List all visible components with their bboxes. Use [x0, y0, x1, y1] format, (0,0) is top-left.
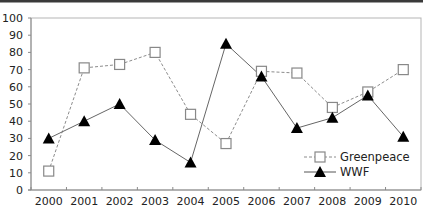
wwf-triangle-marker [78, 115, 90, 126]
wwf-triangle-marker [114, 98, 126, 109]
top-bar [0, 0, 423, 3]
wwf-triangle-marker [326, 112, 338, 123]
x-tick-label: 2005 [212, 195, 240, 208]
wwf-triangle-marker [43, 132, 55, 143]
legend-label-greenpeace: Greenpeace [340, 150, 410, 164]
x-tick-label: 2000 [35, 195, 63, 208]
x-axis: 2000200120022003200420052006200720082009… [28, 187, 421, 208]
wwf-triangle-marker [185, 156, 197, 167]
wwf-triangle-marker [291, 122, 303, 133]
y-tick-label: 50 [9, 98, 23, 111]
x-tick-label: 2004 [177, 195, 205, 208]
greenpeace-square-marker [44, 166, 54, 176]
x-tick-label: 2009 [354, 195, 382, 208]
y-axis: 0102030405060708090100 [2, 12, 31, 197]
x-tick-label: 2002 [106, 195, 134, 208]
y-tick-label: 10 [9, 167, 23, 180]
legend-label-wwf: WWF [340, 165, 369, 179]
greenpeace-square-marker [292, 68, 302, 78]
y-tick-label: 90 [9, 29, 23, 42]
y-tick-label: 100 [2, 12, 23, 25]
wwf-triangle-marker [220, 38, 232, 49]
y-tick-label: 40 [9, 115, 23, 128]
line-chart: 0102030405060708090100 20002001200220032… [0, 0, 428, 222]
greenpeace-square-marker [398, 65, 408, 75]
legend: GreenpeaceWWF [304, 150, 410, 179]
x-tick-label: 2003 [141, 195, 169, 208]
y-tick-label: 70 [9, 64, 23, 77]
x-tick-label: 2010 [389, 195, 417, 208]
y-tick-label: 0 [16, 184, 23, 197]
y-tick-label: 30 [9, 132, 23, 145]
y-tick-label: 80 [9, 46, 23, 59]
greenpeace-square-marker [115, 59, 125, 69]
greenpeace-square-marker [150, 47, 160, 57]
x-tick-label: 2006 [247, 195, 275, 208]
x-tick-label: 2007 [283, 195, 311, 208]
greenpeace-square-marker [221, 139, 231, 149]
y-tick-label: 20 [9, 150, 23, 163]
greenpeace-square-marker [79, 63, 89, 73]
x-tick-label: 2008 [318, 195, 346, 208]
greenpeace-square-marker [327, 102, 337, 112]
x-tick-label: 2001 [70, 195, 98, 208]
legend-square-icon [315, 152, 325, 162]
greenpeace-square-marker [186, 109, 196, 119]
y-tick-label: 60 [9, 81, 23, 94]
